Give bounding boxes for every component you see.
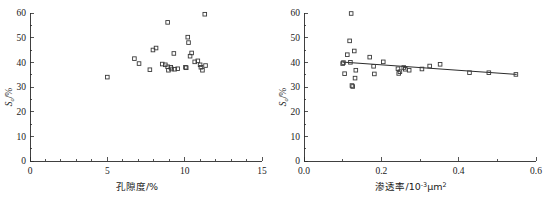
right-axis-spine (304, 13, 536, 161)
left-y-tick-label: 10 (17, 132, 27, 142)
left-y-tick-label: 30 (17, 82, 27, 92)
right-y-axis-label-unit: /% (278, 88, 288, 99)
right-y-tick-label: 50 (291, 33, 301, 43)
right-x-axis-label-mid: μm (427, 181, 442, 192)
right-data-point (348, 39, 352, 43)
left-data-point (166, 21, 170, 25)
right-data-point (372, 64, 376, 68)
left-y-axis-label-unit: /% (4, 88, 14, 99)
right-y-tick-label: 30 (291, 82, 301, 92)
right-x-axis-label-exponent2: 2 (442, 181, 446, 189)
right-x-axis-label-base: 渗透率/10 (375, 181, 420, 192)
right-y-tick-label: 20 (291, 107, 301, 117)
left-y-tick-label: 40 (17, 58, 27, 68)
right-x-tick-label: 0.0 (298, 166, 310, 176)
left-y-tick-label: 60 (17, 8, 27, 18)
right-y-tick-label: 0 (295, 156, 300, 166)
right-x-tick-label: 0.6 (530, 166, 542, 176)
right-tick-labels: 01020304050600.00.20.40.6 (291, 8, 543, 176)
chart-panel-right: 01020304050600.00.20.40.6 So/% 渗透率/10-3μ… (274, 0, 548, 204)
left-data-point (203, 12, 207, 16)
left-ticks (30, 13, 262, 161)
right-data-point (346, 53, 350, 57)
left-data-point (137, 62, 141, 66)
left-x-tick-label: 0 (28, 166, 33, 176)
right-data-point (352, 49, 356, 53)
right-x-axis-label: 渗透率/10-3μm2 (375, 181, 446, 192)
right-data-point (343, 72, 347, 76)
scatter-chart-permeability: 01020304050600.00.20.40.6 So/% 渗透率/10-3μ… (274, 0, 548, 204)
right-x-tick-label: 0.2 (375, 166, 387, 176)
left-data-point (133, 57, 137, 61)
left-y-tick-label: 0 (21, 156, 26, 166)
left-x-tick-label: 15 (257, 166, 267, 176)
left-data-markers (106, 12, 208, 79)
right-y-tick-label: 40 (291, 58, 301, 68)
chart-panel-left: 0102030405060051015 So/% 孔隙度/% (0, 0, 274, 204)
right-data-point (381, 60, 385, 64)
left-data-point (172, 52, 176, 56)
left-x-axis-label: 孔隙度/% (116, 181, 158, 192)
right-data-point (354, 68, 358, 72)
right-data-point (438, 63, 442, 67)
right-data-point (373, 72, 377, 76)
left-y-axis-label: So/% (4, 88, 15, 107)
right-data-markers (341, 12, 518, 89)
left-data-point (204, 64, 208, 68)
left-y-tick-label: 50 (17, 33, 27, 43)
figure-container: 0102030405060051015 So/% 孔隙度/% 010203040… (0, 0, 548, 204)
right-y-tick-label: 10 (291, 132, 301, 142)
left-axes (30, 13, 262, 161)
right-y-tick-label: 60 (291, 8, 301, 18)
right-data-point (349, 12, 353, 16)
right-data-point (368, 55, 372, 59)
left-data-point (148, 68, 152, 72)
right-y-axis-label: So/% (278, 88, 289, 107)
right-data-point (407, 68, 411, 72)
left-y-tick-label: 20 (17, 107, 27, 117)
left-tick-labels: 0102030405060051015 (17, 8, 268, 176)
right-data-point (428, 64, 432, 68)
right-axes (304, 13, 536, 161)
left-data-point (186, 35, 190, 39)
left-x-tick-label: 5 (105, 166, 110, 176)
left-axis-spine (30, 13, 262, 161)
left-data-point (106, 75, 110, 79)
right-x-tick-label: 0.4 (453, 166, 465, 176)
right-ticks (304, 13, 536, 161)
right-data-point (353, 76, 357, 80)
left-data-point (187, 41, 191, 45)
scatter-chart-porosity: 0102030405060051015 So/% 孔隙度/% (0, 0, 274, 204)
left-x-tick-label: 10 (180, 166, 190, 176)
